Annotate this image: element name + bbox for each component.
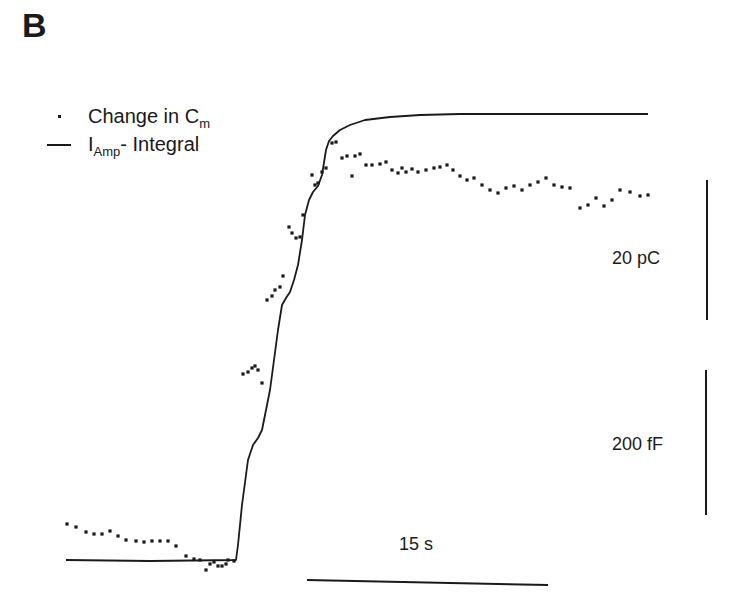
cm-data-point	[568, 186, 571, 189]
cm-data-point	[536, 180, 539, 183]
cm-data-point	[586, 203, 589, 206]
cm-data-point	[364, 163, 367, 166]
cm-data-point	[216, 564, 219, 567]
cm-data-point	[400, 166, 403, 169]
cm-data-point	[192, 557, 195, 560]
cm-data-point	[504, 186, 507, 189]
cm-data-point	[512, 184, 515, 187]
cm-data-point	[92, 532, 95, 535]
cm-data-point	[378, 162, 381, 165]
cm-data-point	[174, 544, 177, 547]
cm-data-point	[628, 190, 631, 193]
cm-data-point	[270, 294, 273, 297]
cm-data-point	[496, 191, 499, 194]
cm-data-point	[116, 534, 119, 537]
cm-data-point	[358, 152, 361, 155]
cm-data-point	[465, 178, 468, 181]
cm-data-point	[384, 160, 387, 163]
cm-data-point	[220, 564, 223, 567]
cm-data-point	[273, 288, 276, 291]
cm-data-point	[320, 170, 323, 173]
cm-data-point	[552, 183, 555, 186]
cm-data-point	[208, 562, 211, 565]
cm-data-point	[350, 174, 353, 177]
cm-data-point	[528, 183, 531, 186]
cm-data-point	[445, 163, 448, 166]
time-scale-label: 15 s	[399, 534, 433, 555]
cm-dot-series	[65, 140, 649, 571]
cm-data-point	[198, 558, 201, 561]
cm-data-point	[278, 285, 281, 288]
cm-data-point	[390, 168, 393, 171]
cm-data-point	[594, 196, 597, 199]
cm-data-point	[610, 198, 613, 201]
cm-data-point	[124, 538, 127, 541]
cm-data-point	[281, 274, 284, 277]
cm-data-point	[150, 539, 153, 542]
cm-data-point	[265, 298, 268, 301]
cm-data-point	[260, 381, 263, 384]
cm-data-point	[290, 231, 293, 234]
cm-data-point	[65, 522, 68, 525]
cm-data-point	[330, 141, 333, 144]
cm-data-point	[438, 165, 441, 168]
cm-data-point	[602, 204, 605, 207]
cm-data-point	[241, 372, 244, 375]
charge-scale-label: 20 pC	[612, 248, 660, 269]
cm-data-point	[246, 370, 249, 373]
cm-data-point	[166, 539, 169, 542]
cm-data-point	[287, 225, 290, 228]
cm-data-point	[370, 163, 373, 166]
capacitance-scale-label: 200 fF	[612, 434, 663, 455]
cm-data-point	[334, 140, 337, 143]
cm-data-point	[212, 560, 215, 563]
cm-data-point	[100, 532, 103, 535]
cm-data-point	[134, 539, 137, 542]
cm-data-point	[256, 368, 259, 371]
cm-data-point	[310, 173, 313, 176]
cm-data-point	[410, 167, 413, 170]
cm-data-point	[74, 525, 77, 528]
cm-data-point	[108, 529, 111, 532]
cm-data-point	[142, 540, 145, 543]
cm-data-point	[298, 235, 301, 238]
cm-data-point	[184, 554, 187, 557]
integral-trace	[66, 114, 648, 561]
cm-data-point	[432, 166, 435, 169]
cm-data-point	[472, 176, 475, 179]
cm-data-point	[544, 176, 547, 179]
cm-data-point	[560, 185, 563, 188]
cm-data-point	[301, 213, 304, 216]
cm-data-point	[324, 166, 327, 169]
cm-data-point	[488, 188, 491, 191]
cm-data-point	[480, 183, 483, 186]
cm-data-point	[646, 193, 649, 196]
time-scale-bar	[307, 580, 548, 585]
cm-data-point	[158, 539, 161, 542]
cm-data-point	[404, 170, 407, 173]
cm-data-point	[416, 170, 419, 173]
cm-data-point	[396, 171, 399, 174]
cm-data-point	[638, 194, 641, 197]
cm-data-point	[316, 181, 319, 184]
cm-data-point	[226, 558, 229, 561]
cm-data-point	[424, 168, 427, 171]
cm-data-point	[345, 154, 348, 157]
cm-data-point	[340, 156, 343, 159]
cm-data-point	[313, 183, 316, 186]
cm-data-point	[294, 236, 297, 239]
cm-data-point	[618, 188, 621, 191]
cm-data-point	[204, 568, 207, 571]
cm-data-point	[224, 562, 227, 565]
cm-data-point	[353, 154, 356, 157]
cm-data-point	[253, 364, 256, 367]
cm-data-point	[232, 559, 235, 562]
cm-data-point	[84, 530, 87, 533]
cm-data-point	[451, 168, 454, 171]
cm-data-point	[250, 366, 253, 369]
cm-data-point	[458, 174, 461, 177]
cm-data-point	[578, 206, 581, 209]
cm-data-point	[520, 188, 523, 191]
plot-area	[0, 0, 739, 605]
